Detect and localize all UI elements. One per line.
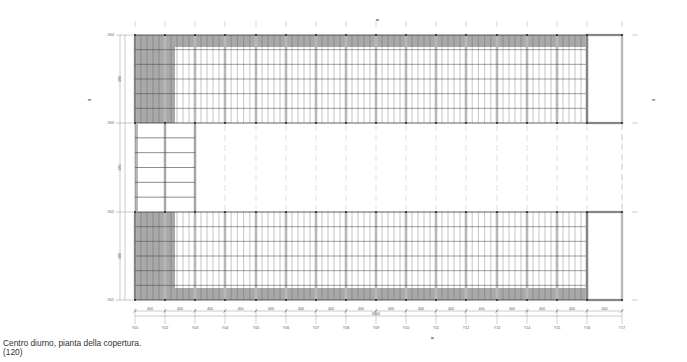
column-label-y04: Y04 [222,326,228,330]
bay-dimension-label: 400 [238,307,244,311]
grid-node [255,34,257,36]
grid-node [194,299,196,301]
row-label-x03: X03 [108,121,114,125]
bay-dimension-label: 400 [602,307,608,311]
grid-node [315,299,317,301]
column-label-y14: Y14 [524,326,530,330]
bay-dimension-label: 400 [448,307,454,311]
grid-node [255,211,257,213]
column-label-y07: Y07 [313,326,319,330]
bay-dimension-label: 400 [479,307,485,311]
grid-node [375,34,377,36]
column-label-y02: Y02 [162,326,168,330]
grid-node [621,122,623,124]
column-label-y10: Y10 [403,326,409,330]
bay-dimension-label: 400 [418,307,424,311]
grid-node [134,211,136,213]
vertical-dimension-label: 380 [118,76,122,82]
grid-node [134,299,136,301]
grid-node [435,211,437,213]
grid-node [224,122,226,124]
bay-dimension-label: 400 [207,307,213,311]
column-label-y12: Y12 [463,326,469,330]
lower-roof-band-end-bay [587,212,622,300]
bay-dimension-label: 400 [177,307,183,311]
grid-node [526,299,528,301]
drawing-caption: Centro diurno, pianta della copertura. (… [3,339,141,357]
grid-node [134,122,136,124]
row-label-x02: X02 [108,210,114,214]
grid-node [586,122,588,124]
grid-node [586,299,588,301]
section-marker-bottom: A [430,337,434,340]
grid-node [526,34,528,36]
bay-dimension-label: 400 [147,307,153,311]
lower-roof-band-edge-strip [135,288,587,300]
grid-node [586,211,588,213]
roof-plan-drawing: AX04X03X02X01380380380BB400Y01400Y02400Y… [0,0,687,362]
grid-node [496,299,498,301]
grid-node [345,211,347,213]
grid-node [621,299,623,301]
grid-node [496,122,498,124]
bay-dimension-label: 400 [388,307,394,311]
bay-dimension-label: 400 [268,307,274,311]
grid-node [345,299,347,301]
grid-node [345,122,347,124]
grid-node [164,299,166,301]
grid-node [134,34,136,36]
grid-node [586,34,588,36]
row-label-x04: X04 [108,33,114,37]
bay-dimension-label: 400 [539,307,545,311]
column-label-y03: Y03 [192,326,198,330]
grid-node [556,34,558,36]
grid-node [435,122,437,124]
grid-node [375,211,377,213]
bay-dimension-label: 400 [298,307,304,311]
grid-node [556,211,558,213]
grid-node [405,34,407,36]
grid-node [465,34,467,36]
caption-title: Centro diurno, pianta della copertura. [3,339,141,348]
grid-node [255,299,257,301]
grid-node [285,211,287,213]
grid-node [526,122,528,124]
vertical-dimension-label: 380 [118,253,122,259]
column-label-y06: Y06 [283,326,289,330]
column-label-y11: Y11 [433,326,439,330]
grid-node [435,299,437,301]
grid-node [375,122,377,124]
column-label-y15: Y15 [554,326,560,330]
grid-node [224,211,226,213]
grid-node [496,34,498,36]
grid-node [224,34,226,36]
grid-node [465,122,467,124]
grid-node [526,211,528,213]
bay-dimension-label: 400 [358,307,364,311]
grid-node [315,34,317,36]
grid-node [556,122,558,124]
grid-node [621,34,623,36]
grid-node [465,299,467,301]
grid-node [405,211,407,213]
grid-node [315,122,317,124]
grid-node [315,211,317,213]
section-marker-right: B [651,99,655,102]
grid-node [435,34,437,36]
column-label-y09: Y09 [373,326,379,330]
grid-node [465,211,467,213]
grid-node [164,34,166,36]
bay-dimension-label: 400 [328,307,334,311]
grid-node [255,122,257,124]
column-label-y13: Y13 [494,326,500,330]
section-marker-top: A [375,19,379,22]
upper-roof-band-end-bay [587,35,622,123]
bay-dimension-label: 400 [509,307,515,311]
grid-node [285,299,287,301]
grid-node [405,122,407,124]
grid-node [345,34,347,36]
bay-dimension-label: 400 [569,307,575,311]
upper-roof-band-edge-strip [135,35,587,47]
column-label-y16: Y16 [584,326,590,330]
overall-dimension-label: 6400 [372,312,380,316]
